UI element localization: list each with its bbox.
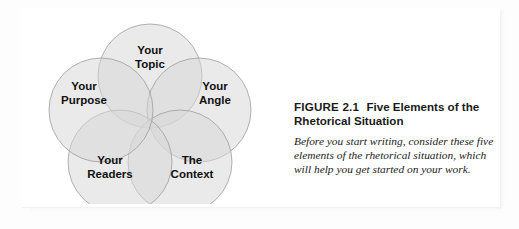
venn-label-purpose-line2: Purpose <box>61 94 107 106</box>
caption-body-text: Before you start writing, consider these… <box>294 134 494 176</box>
venn-diagram-svg: YourTopicYourAngleTheContextYourReadersY… <box>34 14 266 204</box>
venn-label-topic-line1: Your <box>137 44 163 56</box>
venn-label-topic-line2: Topic <box>135 58 165 70</box>
venn-label-angle-line2: Angle <box>199 94 231 106</box>
venn-label-context-line1: The <box>182 154 202 166</box>
scanned-page-canvas: YourTopicYourAngleTheContextYourReadersY… <box>0 0 519 229</box>
venn-label-purpose-line1: Your <box>71 80 97 92</box>
venn-label-readers-line1: Your <box>97 154 123 166</box>
rhetorical-situation-venn-diagram: YourTopicYourAngleTheContextYourReadersY… <box>34 14 266 204</box>
venn-circle-purpose <box>49 58 153 162</box>
caption-heading: FIGURE 2.1 Five Elements of the Rhetoric… <box>294 100 494 129</box>
figure-caption: FIGURE 2.1 Five Elements of the Rhetoric… <box>294 100 494 176</box>
venn-label-context-line2: Context <box>171 168 214 180</box>
venn-label-angle-line1: Your <box>202 80 228 92</box>
venn-label-readers-line2: Readers <box>87 168 132 180</box>
figure-page: YourTopicYourAngleTheContextYourReadersY… <box>22 8 500 207</box>
caption-figure-number: FIGURE 2.1 <box>294 100 359 113</box>
venn-label-topic: YourTopic <box>135 44 165 70</box>
venn-label-angle: YourAngle <box>199 80 231 106</box>
